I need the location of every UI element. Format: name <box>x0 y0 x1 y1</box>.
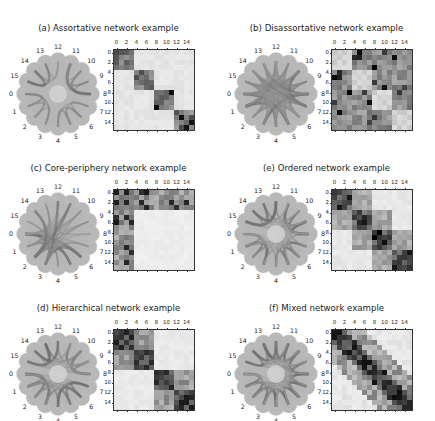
y-tick-mark <box>330 63 332 64</box>
node-label: 11 <box>287 47 301 54</box>
x-tick-label: 8 <box>370 39 380 45</box>
node-label: 1 <box>226 248 240 255</box>
x-tick-mark <box>147 328 148 330</box>
network-graph: 0123456789101112131415 <box>228 184 324 280</box>
x-tick-label: 14 <box>400 319 410 325</box>
x-tick-label: 2 <box>340 319 350 325</box>
network-graph: 0123456789101112131415 <box>228 324 324 420</box>
y-tick-mark <box>330 83 332 84</box>
node-label: 12 <box>51 183 65 190</box>
y-tick-label: 10 <box>102 99 111 105</box>
x-tick-mark <box>405 48 406 50</box>
node-label: 0 <box>4 90 18 97</box>
x-tick-mark-bottom <box>137 130 138 132</box>
x-tick-label: 2 <box>340 179 350 185</box>
x-tick-mark-bottom <box>385 270 386 272</box>
y-tick-label: 10 <box>102 379 111 385</box>
x-tick-mark <box>385 328 386 330</box>
y-tick-mark <box>112 113 114 114</box>
y-tick-label: 6 <box>102 79 111 85</box>
x-tick-mark-bottom <box>177 270 178 272</box>
node-label: 2 <box>18 403 32 410</box>
y-tick-mark <box>112 83 114 84</box>
y-tick-label: 6 <box>320 79 329 85</box>
x-tick-mark-bottom <box>147 130 148 132</box>
x-tick-mark <box>385 188 386 190</box>
y-tick-mark <box>112 63 114 64</box>
x-tick-label: 14 <box>182 319 192 325</box>
y-tick-mark <box>112 263 114 264</box>
y-tick-mark <box>330 333 332 334</box>
node-label: 15 <box>8 212 22 219</box>
node-label: 11 <box>69 327 83 334</box>
x-tick-label: 0 <box>112 319 122 325</box>
node-label: 5 <box>69 413 83 420</box>
x-tick-label: 4 <box>132 319 142 325</box>
y-tick-mark <box>330 213 332 214</box>
y-tick-mark <box>112 73 114 74</box>
y-tick-label: 14 <box>102 259 111 265</box>
node-label: 12 <box>51 43 65 50</box>
x-tick-mark <box>157 328 158 330</box>
x-tick-label: 0 <box>330 39 340 45</box>
adjacency-heatmap: 0022446688101012121414 <box>113 189 195 271</box>
y-tick-mark <box>112 333 114 334</box>
y-tick-label: 8 <box>320 369 329 375</box>
node-label: 2 <box>18 123 32 130</box>
y-tick-label: 4 <box>320 69 329 75</box>
x-tick-label: 14 <box>182 179 192 185</box>
x-tick-label: 8 <box>152 319 162 325</box>
y-tick-label: 4 <box>102 209 111 215</box>
y-tick-label: 4 <box>320 349 329 355</box>
node-label: 5 <box>287 413 301 420</box>
x-tick-mark <box>147 48 148 50</box>
y-tick-label: 0 <box>320 49 329 55</box>
x-tick-label: 6 <box>142 319 152 325</box>
x-tick-label: 0 <box>112 179 122 185</box>
panel-title: (c) Core-periphery network example <box>0 163 217 173</box>
x-tick-mark <box>375 48 376 50</box>
y-tick-mark <box>112 373 114 374</box>
x-tick-mark-bottom <box>405 130 406 132</box>
y-tick-mark <box>330 343 332 344</box>
y-tick-mark <box>330 253 332 254</box>
y-tick-label: 0 <box>102 329 111 335</box>
y-tick-mark <box>330 103 332 104</box>
x-tick-label: 12 <box>390 39 400 45</box>
x-tick-mark-bottom <box>157 410 158 412</box>
y-tick-label: 10 <box>320 99 329 105</box>
x-tick-label: 12 <box>172 39 182 45</box>
y-tick-label: 2 <box>102 199 111 205</box>
x-tick-label: 6 <box>142 39 152 45</box>
x-tick-mark-bottom <box>117 270 118 272</box>
y-tick-label: 8 <box>320 229 329 235</box>
y-tick-mark <box>112 363 114 364</box>
x-tick-label: 12 <box>390 179 400 185</box>
node-label: 11 <box>287 327 301 334</box>
x-tick-mark <box>395 328 396 330</box>
x-tick-mark <box>365 328 366 330</box>
x-tick-label: 8 <box>370 319 380 325</box>
x-tick-mark-bottom <box>177 130 178 132</box>
x-tick-mark-bottom <box>385 410 386 412</box>
x-tick-label: 4 <box>350 179 360 185</box>
node-label: 6 <box>302 263 316 270</box>
y-tick-label: 10 <box>320 379 329 385</box>
x-tick-mark <box>137 48 138 50</box>
y-tick-label: 0 <box>102 49 111 55</box>
node-label: 2 <box>236 263 250 270</box>
node-label: 10 <box>302 57 316 64</box>
panel-title: (f) Mixed network example <box>218 303 435 313</box>
x-tick-label: 2 <box>122 179 132 185</box>
y-tick-label: 12 <box>102 109 111 115</box>
x-tick-mark <box>137 328 138 330</box>
panel-e: (e) Ordered network example0123456789101… <box>218 140 435 280</box>
x-tick-mark <box>405 188 406 190</box>
x-tick-mark <box>177 328 178 330</box>
x-tick-mark-bottom <box>375 410 376 412</box>
y-tick-label: 4 <box>320 209 329 215</box>
x-tick-mark <box>405 328 406 330</box>
x-tick-label: 10 <box>162 39 172 45</box>
x-tick-mark <box>127 328 128 330</box>
y-tick-label: 2 <box>102 59 111 65</box>
